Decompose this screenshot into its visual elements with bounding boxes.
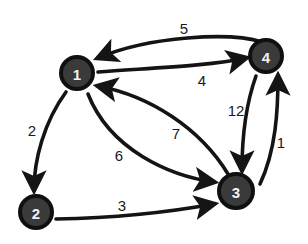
edge-weight-1-2: 2 bbox=[28, 122, 36, 139]
graph-diagram: 5 4 2 6 7 3 12 1 1 2 3 4 bbox=[0, 0, 308, 244]
edge-4-to-1 bbox=[98, 37, 262, 58]
edge-2-to-3 bbox=[56, 204, 214, 219]
node-3-label: 3 bbox=[232, 184, 240, 201]
node-2-label: 2 bbox=[32, 205, 40, 222]
node-3: 3 bbox=[219, 174, 253, 208]
edge-3-to-4 bbox=[260, 76, 278, 184]
edge-1-to-2 bbox=[34, 92, 66, 190]
edge-1-to-3 bbox=[88, 94, 214, 182]
node-1: 1 bbox=[61, 57, 93, 89]
node-1-label: 1 bbox=[73, 66, 81, 83]
node-2: 2 bbox=[20, 196, 52, 228]
edge-1-to-4 bbox=[98, 58, 246, 72]
edge-weight-4-3: 12 bbox=[228, 102, 245, 119]
edge-weight-2-3: 3 bbox=[118, 197, 126, 214]
edge-weight-3-4: 1 bbox=[277, 134, 285, 151]
node-4: 4 bbox=[250, 40, 282, 72]
edge-weight-4-1: 5 bbox=[180, 20, 188, 37]
edge-weight-3-1: 7 bbox=[172, 125, 180, 142]
edge-4-to-3 bbox=[242, 76, 256, 170]
node-4-label: 4 bbox=[262, 49, 271, 66]
edge-weight-1-4: 4 bbox=[198, 72, 206, 89]
edge-weight-1-3: 6 bbox=[115, 147, 123, 164]
